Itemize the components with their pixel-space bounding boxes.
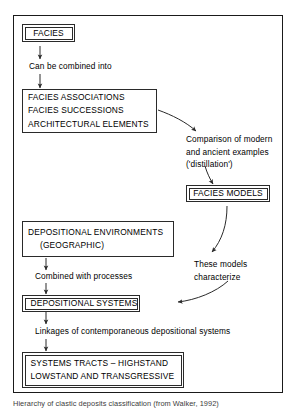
label-these-models-line-2: characterize [194,271,247,284]
label-linkages: Linkages of contemporaneous depositional… [35,325,230,338]
label-comparison: Comparison of modern and ancient example… [186,133,272,171]
facies-hierarchy-diagram: FACIES FACIES ASSOCIATIONS FACIES SUCCES… [0,0,296,412]
figure-caption: Hierarchy of clastic deposits classifica… [13,399,293,409]
node-depositional-environments-line-1: DEPOSITIONAL ENVIRONMENTS [23,226,173,239]
label-comparison-line-3: ('distillation') [186,158,272,171]
node-facies-associations-line-2: FACIES SUCCESSIONS [23,104,156,117]
node-systems-tracts-line-2: LOWSTAND AND TRANSGRESSIVE [26,370,181,383]
node-depositional-environments: DEPOSITIONAL ENVIRONMENTS (GEOGRAPHIC) [22,221,174,257]
node-systems-tracts-line-1: SYSTEMS TRACTS – HIGHSTAND [26,357,181,370]
node-facies-label: FACIES [26,27,72,40]
node-facies-associations-line-3: ARCHITECTURAL ELEMENTS [23,118,156,131]
node-depositional-environments-line-2: (GEOGRAPHIC) [23,239,173,252]
label-these-models-characterize: These models characterize [194,258,247,283]
label-comparison-line-1: Comparison of modern [186,133,272,146]
node-facies: FACIES [22,24,75,42]
label-can-be-combined-into: Can be combined into [29,60,112,73]
node-depositional-systems: DEPOSITIONAL SYSTEMS [22,295,140,312]
node-systems-tracts: SYSTEMS TRACTS – HIGHSTAND LOWSTAND AND … [22,352,184,388]
node-facies-models: FACIES MODELS [186,185,270,202]
node-depositional-systems-label: DEPOSITIONAL SYSTEMS [26,297,137,310]
label-these-models-line-1: These models [194,258,247,271]
node-facies-associations-line-1: FACIES ASSOCIATIONS [23,91,156,104]
node-facies-associations: FACIES ASSOCIATIONS FACIES SUCCESSIONS A… [22,89,157,133]
label-comparison-line-2: and ancient examples [186,146,272,159]
node-facies-models-label: FACIES MODELS [190,187,267,200]
label-combined-with-processes: Combined with processes [35,270,132,283]
